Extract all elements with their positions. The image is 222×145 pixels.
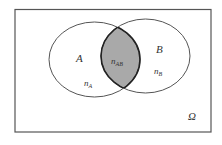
venn-diagram: A nA nAB B nB Ω (0, 0, 222, 145)
set-a-count-label: nA (84, 78, 93, 89)
set-a-label: A (75, 52, 83, 64)
set-b-label: B (156, 43, 163, 55)
set-b-count-label: nB (154, 66, 163, 77)
universe-label: Ω (188, 110, 196, 122)
